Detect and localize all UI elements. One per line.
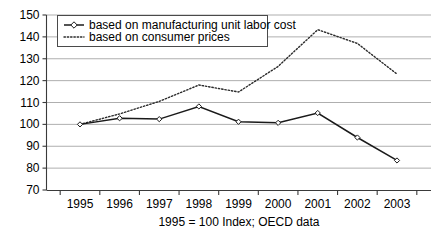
x-axis-tick-label: 2003 — [384, 197, 411, 211]
x-axis-tick-label: 2002 — [344, 197, 371, 211]
x-axis-tick-label: 1999 — [225, 197, 252, 211]
x-axis-tick-label: 1995 — [67, 197, 94, 211]
x-axis-tick-labels: 199519961997199819992000200120022003 — [67, 197, 411, 211]
x-axis-tick-label: 2001 — [304, 197, 331, 211]
chart-caption: 1995 = 100 Index; OECD data — [158, 215, 319, 229]
legend-label-consumer-prices: based on consumer prices — [89, 30, 230, 44]
chart-legend: based on manufacturing unit labor cost b… — [58, 16, 297, 47]
y-axis-tick-label: 140 — [19, 30, 39, 44]
chart-container: 708090100110120130140150 199519961997199… — [0, 0, 444, 237]
y-axis-tick-label: 100 — [19, 117, 39, 131]
x-axis-tick-label: 2000 — [265, 197, 292, 211]
y-axis-tick-label: 80 — [26, 161, 40, 175]
y-axis-tick-label: 90 — [26, 139, 40, 153]
x-axis-tick-label: 1996 — [106, 197, 133, 211]
y-axis-tick-label: 70 — [26, 183, 40, 197]
x-axis-tick-label: 1998 — [186, 197, 213, 211]
y-axis-tick-label: 130 — [19, 52, 39, 66]
y-axis-tick-label: 110 — [20, 96, 39, 110]
y-axis-tick-label: 150 — [19, 8, 39, 22]
line-chart: 708090100110120130140150 199519961997199… — [0, 0, 444, 237]
x-axis-tick-label: 1997 — [146, 197, 173, 211]
y-axis-tick-label: 120 — [19, 74, 39, 88]
